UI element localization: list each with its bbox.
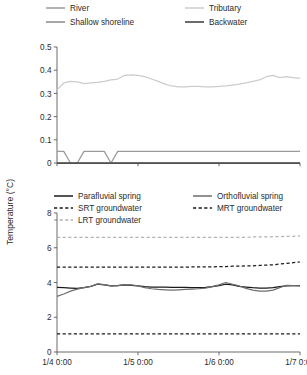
axis-lines-top-panel: [57, 47, 300, 163]
y-tick-label-0: 0: [47, 159, 52, 168]
legend-label-mrt-groundwater: MRT groundwater: [217, 204, 283, 213]
y-tick-label-2: 0.2: [40, 113, 52, 122]
series-river: [57, 151, 300, 163]
series-srt-groundwater: [57, 262, 300, 267]
legend-label-shallow-shoreline: Shallow shoreline: [70, 18, 135, 27]
x-tick-label-0: 1/4 0:00: [42, 358, 72, 367]
y-tick-label-3: 0.3: [40, 90, 52, 99]
y-tick-label-5: 0.5: [40, 43, 52, 52]
legend-label-river: River: [70, 4, 89, 13]
x-tick-label-1: 1/5 0:00: [123, 358, 153, 367]
legend-label-orthofluvial-spring: Orthofluvial spring: [217, 192, 283, 201]
legend-label-tributary: Tributary: [209, 4, 242, 13]
y-tick-label-1: 2: [47, 313, 52, 322]
y-axis-title: Temperature (°C): [5, 179, 15, 245]
series-orthofluvial-spring: [57, 283, 300, 297]
y-tick-label-2: 4: [47, 279, 52, 288]
y-tick-label-4: 8: [47, 209, 52, 218]
y-tick-label-3: 6: [47, 244, 52, 253]
series-lrt-groundwater: [57, 236, 300, 237]
y-tick-label-4: 0.4: [40, 66, 52, 75]
axis-lines-bottom-panel: [57, 213, 300, 352]
legend-label-parafluvial-spring: Parafluvial spring: [78, 192, 141, 201]
legend-top-panel: RiverTributaryShallow shorelineBackwater: [46, 4, 247, 27]
temperature-figure: RiverTributaryShallow shorelineBackwater…: [0, 0, 307, 375]
legend-label-backwater: Backwater: [209, 18, 247, 27]
legend-label-srt-groundwater: SRT groundwater: [78, 204, 142, 213]
y-tick-label-0: 0: [47, 348, 52, 357]
series-tributary: [57, 75, 300, 90]
x-tick-label-2: 1/6 0:00: [204, 358, 234, 367]
legend-label-lrt-groundwater: LRT groundwater: [78, 216, 141, 225]
y-tick-label-1: 0.1: [40, 136, 52, 145]
x-tick-label-3: 1/7 0:00: [285, 358, 307, 367]
legend-bottom-panel: Parafluvial springOrthofluvial springSRT…: [54, 192, 283, 225]
chart-panel-bottom-panel: Parafluvial springOrthofluvial springSRT…: [42, 192, 307, 366]
chart-panel-top-panel: RiverTributaryShallow shorelineBackwater…: [40, 4, 300, 168]
